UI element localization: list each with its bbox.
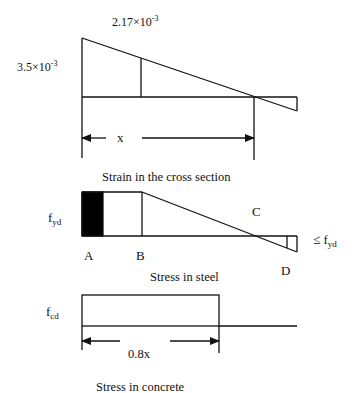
point-c-label: C bbox=[252, 204, 261, 219]
strain-diagram bbox=[82, 38, 297, 160]
fcd-label: fcd bbox=[46, 304, 59, 321]
steel-diagram bbox=[82, 192, 297, 252]
concrete-stress-block bbox=[82, 295, 219, 326]
strain-slope-line bbox=[82, 38, 297, 111]
stress-strain-diagram: 2.17×10-3 3.5×10-3 x Strain in the cross… bbox=[0, 0, 355, 393]
strain-caption: Strain in the cross section bbox=[102, 170, 231, 184]
dimension-08x-label: 0.8x bbox=[128, 347, 151, 361]
max-fyd-label: ≤ fyd bbox=[313, 232, 337, 249]
steel-slope-line bbox=[142, 192, 297, 252]
point-d-label: D bbox=[281, 263, 290, 278]
concrete-caption: Stress in concrete bbox=[96, 380, 185, 393]
dimension-x-label: x bbox=[117, 130, 124, 145]
point-b-label: B bbox=[136, 248, 145, 263]
point-a-label: A bbox=[84, 248, 94, 263]
concrete-diagram bbox=[82, 295, 297, 353]
steel-caption: Stress in steel bbox=[150, 270, 219, 284]
fyd-label: fyd bbox=[48, 210, 62, 227]
steel-yield-fill-a bbox=[82, 192, 103, 236]
strain-left-label: 3.5×10-3 bbox=[17, 59, 57, 74]
strain-top-label: 2.17×10-3 bbox=[112, 14, 158, 29]
